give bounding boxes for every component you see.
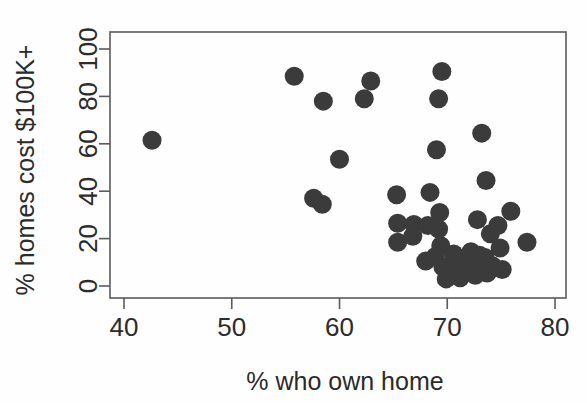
data-point: [421, 183, 440, 202]
x-tick-label: 60: [325, 312, 354, 342]
data-point: [517, 233, 536, 252]
data-point: [488, 216, 507, 235]
y-tick-label: 100: [73, 27, 103, 70]
data-point: [427, 140, 446, 159]
y-tick-label: 60: [73, 129, 103, 158]
data-point: [429, 220, 448, 239]
x-axis-tick-labels: 4050607080: [110, 312, 570, 342]
data-point: [314, 92, 333, 111]
y-tick-label: 0: [73, 279, 103, 293]
y-tick-label: 80: [73, 82, 103, 111]
data-point: [387, 185, 406, 204]
data-point: [501, 202, 520, 221]
data-point: [388, 214, 407, 233]
y-axis-tick-labels: 020406080100: [73, 27, 103, 293]
x-tick-label: 40: [110, 312, 139, 342]
x-axis-ticks: [124, 298, 555, 309]
x-tick-label: 50: [217, 312, 246, 342]
data-point: [361, 72, 380, 91]
y-tick-label: 20: [73, 224, 103, 253]
data-points-layer: [143, 62, 537, 288]
data-point: [432, 62, 451, 81]
data-point: [355, 89, 374, 108]
data-point: [430, 203, 449, 222]
x-axis-title: % who own home: [246, 367, 443, 395]
data-point: [468, 210, 487, 229]
y-tick-label: 40: [73, 177, 103, 206]
x-tick-label: 80: [541, 312, 570, 342]
data-point: [429, 89, 448, 108]
data-point: [313, 195, 332, 214]
data-point: [472, 124, 491, 143]
plot-canvas: 4050607080 020406080100 % who own home %…: [0, 0, 587, 403]
data-point: [493, 260, 512, 279]
data-point: [491, 239, 510, 258]
data-point: [143, 131, 162, 150]
data-point: [285, 67, 304, 86]
data-point: [330, 150, 349, 169]
y-axis-title: % homes cost $100K+: [11, 45, 39, 296]
x-tick-label: 70: [433, 312, 462, 342]
scatter-plot-figure: 4050607080 020406080100 % who own home %…: [0, 0, 587, 403]
data-point: [477, 171, 496, 190]
